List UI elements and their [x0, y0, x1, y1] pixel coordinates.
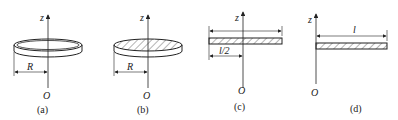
figure-b-disk: z R O (b): [114, 12, 182, 116]
dimension-label-c: l/2: [219, 45, 230, 56]
axis-label-z-a: z: [39, 12, 44, 23]
figure-a-ring: z R O (a): [14, 12, 82, 116]
dimension-label-a: R: [26, 61, 33, 72]
axis-label-z-c: z: [234, 12, 239, 23]
origin-label-a: O: [43, 90, 50, 101]
dimension-label-b: R: [126, 61, 133, 72]
origin-label-c: O: [238, 85, 245, 96]
origin-label-b: O: [143, 90, 150, 101]
physics-diagram: z R O (a) z R O (b) z l/2 O (c) z l O: [0, 0, 398, 120]
caption-b: (b): [137, 104, 149, 116]
figure-c-rod-center: z l/2 O (c): [209, 12, 282, 113]
dimension-label-d: l: [353, 24, 356, 35]
origin-label-d: O: [311, 87, 318, 98]
caption-c: (c): [234, 101, 245, 113]
figure-d-rod-end: z l O (d): [307, 14, 387, 115]
caption-d: (d): [350, 103, 362, 115]
axis-label-z-b: z: [139, 12, 144, 23]
axis-label-z-d: z: [307, 14, 312, 25]
caption-a: (a): [37, 104, 48, 116]
